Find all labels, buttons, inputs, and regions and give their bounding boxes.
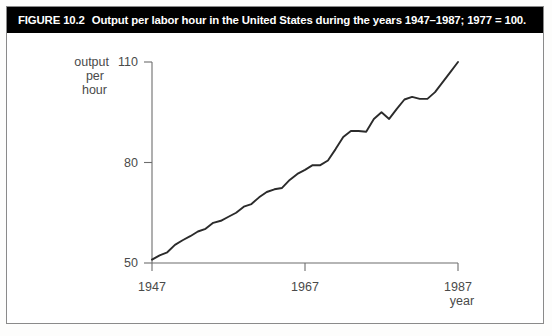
line-chart-svg: 110 80 50 output per hour 1947 1967 1987…: [0, 33, 552, 336]
figure-container: FIGURE 10.2Output per labor hour in the …: [0, 0, 552, 336]
x-axis-title: year: [450, 294, 474, 308]
figure-caption-body: Output per labor hour in the United Stat…: [92, 14, 526, 26]
x-tick-label-1987: 1987: [444, 280, 472, 294]
y-tick-label-80: 80: [124, 156, 138, 170]
output-per-hour-series: [152, 62, 458, 260]
y-tick-label-110: 110: [118, 55, 138, 69]
y-tick-label-50: 50: [124, 256, 138, 270]
figure-caption-text: FIGURE 10.2Output per labor hour in the …: [18, 14, 526, 26]
plot-area: 110 80 50 output per hour 1947 1967 1987…: [0, 33, 552, 336]
figure-number-label: FIGURE 10.2: [18, 14, 85, 26]
y-axis-title-line1: output: [74, 55, 109, 69]
x-tick-label-1947: 1947: [138, 280, 166, 294]
y-axis-title-line3: hour: [82, 83, 107, 97]
y-axis-title-line2: per: [86, 69, 104, 83]
x-tick-label-1967: 1967: [291, 280, 319, 294]
figure-caption-bar: FIGURE 10.2Output per labor hour in the …: [7, 7, 543, 33]
